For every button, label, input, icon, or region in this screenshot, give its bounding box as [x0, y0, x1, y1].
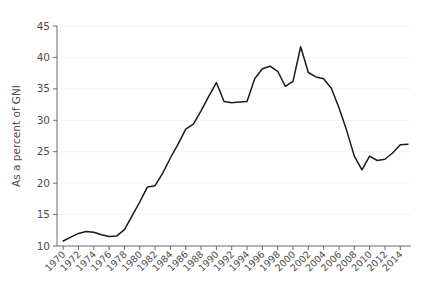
line-chart-svg: 1015202530354045 19701972197419761978198…	[0, 0, 426, 298]
chart-figure: 1015202530354045 19701972197419761978198…	[0, 0, 426, 298]
data-series-line	[63, 47, 408, 241]
gridlines	[57, 26, 411, 215]
y-tick-label: 20	[37, 177, 50, 189]
y-axis-ticks: 1015202530354045	[37, 20, 57, 252]
y-axis-label: As a percent of GNI	[10, 85, 22, 187]
y-tick-label: 40	[37, 51, 50, 63]
x-axis-ticks: 1970197219741976197819801982198419861988…	[43, 246, 405, 274]
y-tick-label: 15	[37, 208, 50, 220]
y-tick-label: 35	[37, 82, 50, 94]
y-tick-label: 45	[37, 20, 50, 32]
y-tick-label: 25	[37, 145, 50, 157]
y-tick-label: 30	[37, 114, 50, 126]
y-tick-label: 10	[37, 240, 50, 252]
